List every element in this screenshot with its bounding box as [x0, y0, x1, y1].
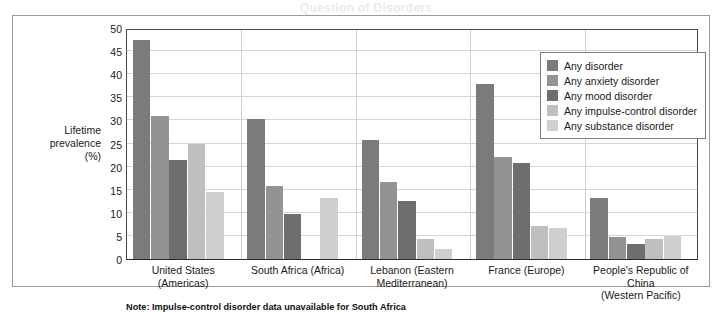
- bar: [398, 201, 416, 259]
- bar: [513, 163, 531, 259]
- x-axis-tick-label-line: People's Republic of China: [584, 264, 698, 289]
- y-axis-tick-label: 15: [98, 185, 122, 197]
- y-axis-tick-label: 25: [98, 139, 122, 151]
- x-axis-tick-label: United States (Americas): [126, 264, 240, 289]
- bar: [531, 226, 549, 259]
- bar: [609, 237, 627, 259]
- legend-item-label: Any substance disorder: [564, 120, 674, 132]
- legend-item: Any anxiety disorder: [547, 73, 697, 88]
- bar: [362, 140, 380, 259]
- legend-swatch-icon: [547, 105, 558, 116]
- bar: [627, 244, 645, 259]
- bar: [169, 160, 187, 259]
- bar: [417, 239, 435, 259]
- y-axis-title-line3: (%): [27, 150, 101, 163]
- y-axis-title-line2: prevalence: [27, 137, 101, 150]
- bar: [549, 228, 567, 259]
- bar: [380, 182, 398, 259]
- legend-item-label: Any anxiety disorder: [564, 75, 659, 87]
- y-axis-tick-label: 5: [98, 231, 122, 243]
- y-axis-tick-label: 45: [98, 46, 122, 58]
- group-separator: [356, 30, 357, 259]
- bar: [133, 40, 151, 259]
- x-axis-tick-label-line: France (Europe): [469, 264, 583, 277]
- bar: [645, 239, 663, 259]
- legend-swatch-icon: [547, 60, 558, 71]
- legend-item-label: Any mood disorder: [564, 90, 652, 102]
- legend-item-label: Any disorder: [564, 60, 623, 72]
- y-axis-title-line1: Lifetime: [27, 124, 101, 137]
- chart-figure: Lifetime prevalence (%) 0510152025303540…: [12, 15, 710, 287]
- x-axis-tick-label-line: Lebanon (Eastern: [355, 264, 469, 277]
- y-axis-tick-label: 40: [98, 69, 122, 81]
- gridline: [127, 166, 697, 167]
- x-axis-tick-label: France (Europe): [469, 264, 583, 277]
- legend-swatch-icon: [547, 75, 558, 86]
- y-axis-title: Lifetime prevalence (%): [27, 124, 101, 163]
- legend-item: Any impulse-control disorder: [547, 103, 697, 118]
- y-axis-tick-label: 35: [98, 92, 122, 104]
- bar: [284, 214, 302, 259]
- bar: [435, 249, 453, 259]
- ghost-bleedthrough-text: Question of Disorders: [300, 1, 432, 15]
- legend-item: Any mood disorder: [547, 88, 697, 103]
- chart-legend: Any disorderAny anxiety disorderAny mood…: [540, 52, 706, 139]
- x-axis-tick-label-line: Mediterranean): [355, 277, 469, 290]
- group-separator: [470, 30, 471, 259]
- legend-swatch-icon: [547, 120, 558, 131]
- y-axis-tick-label: 0: [98, 254, 122, 266]
- legend-swatch-icon: [547, 90, 558, 101]
- gridline: [127, 143, 697, 144]
- bar: [266, 186, 284, 259]
- y-axis-tick-label: 30: [98, 115, 122, 127]
- x-axis-tick-label-line: (Western Pacific): [584, 289, 698, 302]
- x-axis-tick-label-line: South Africa (Africa): [240, 264, 354, 277]
- bar: [590, 198, 608, 259]
- y-axis-tick-label: 10: [98, 208, 122, 220]
- x-axis-tick-label: Lebanon (EasternMediterranean): [355, 264, 469, 289]
- bar: [247, 119, 265, 259]
- bar: [206, 192, 224, 259]
- bar: [188, 144, 206, 260]
- y-axis-tick-labels: 05101520253035404550: [96, 29, 122, 260]
- legend-item-label: Any impulse-control disorder: [564, 105, 697, 117]
- legend-item: Any substance disorder: [547, 118, 697, 133]
- bar: [664, 236, 682, 259]
- y-axis-tick-label: 20: [98, 162, 122, 174]
- y-axis-tick-label: 50: [98, 23, 122, 35]
- bar: [151, 116, 169, 259]
- gridline: [127, 50, 697, 51]
- bar: [476, 84, 494, 259]
- chart-note: Note: Impulse-control disorder data unav…: [126, 302, 406, 312]
- bar: [494, 157, 512, 259]
- x-axis-tick-labels: United States (Americas)South Africa (Af…: [126, 264, 698, 290]
- x-axis-tick-label: People's Republic of China(Western Pacif…: [584, 264, 698, 302]
- x-axis-tick-label: South Africa (Africa): [240, 264, 354, 277]
- gridline: [127, 189, 697, 190]
- bar: [320, 198, 338, 259]
- legend-item: Any disorder: [547, 58, 697, 73]
- x-axis-tick-label-line: United States (Americas): [126, 264, 240, 289]
- group-separator: [241, 30, 242, 259]
